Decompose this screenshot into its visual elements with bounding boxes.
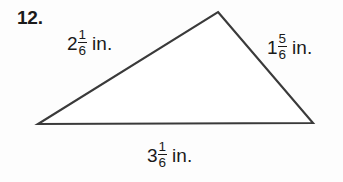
worksheet-problem-figure: 12. 2 1 6 in. 1 5 6 in. 3 1 6 in. <box>0 0 343 182</box>
bottom-whole-number: 3 <box>147 146 158 165</box>
bottom-numerator: 1 <box>158 140 168 154</box>
bottom-fraction: 1 6 <box>158 140 168 170</box>
right-unit: in. <box>292 38 312 57</box>
right-denominator: 6 <box>278 47 288 61</box>
label-left-side: 2 1 6 in. <box>67 28 112 58</box>
bottom-denominator: 6 <box>158 155 168 169</box>
left-numerator: 1 <box>78 28 88 42</box>
left-whole-number: 2 <box>67 34 78 53</box>
left-fraction: 1 6 <box>78 28 88 58</box>
label-bottom-side: 3 1 6 in. <box>147 140 192 170</box>
left-denominator: 6 <box>78 43 88 57</box>
left-unit: in. <box>92 34 112 53</box>
right-whole-number: 1 <box>267 38 278 57</box>
right-fraction: 5 6 <box>278 32 288 62</box>
label-right-side: 1 5 6 in. <box>267 32 312 62</box>
bottom-unit: in. <box>172 146 192 165</box>
right-numerator: 5 <box>278 32 288 46</box>
